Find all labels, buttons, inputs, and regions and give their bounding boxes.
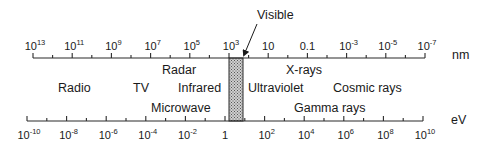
energy-tick-label: 10-6 (99, 127, 118, 141)
energy-tick-label: 106 (338, 127, 354, 141)
wavelength-tick-label: 10-5 (378, 38, 397, 52)
region-label-x-rays: X-rays (286, 63, 322, 77)
energy-axis: 10-1010-810-610-410-211021041061081010 (17, 116, 435, 141)
wavelength-axis: 10131011109107105103100.110-310-510-7 (25, 38, 437, 58)
energy-tick-label: 1010 (415, 127, 436, 141)
wavelength-unit-label: nm (452, 48, 469, 62)
wavelength-tick-label: 107 (144, 38, 160, 52)
region-label-radar: Radar (162, 63, 196, 77)
visible-arrow (244, 24, 257, 55)
spectrum-diagram: Visible 10131011109107105103100.110-310-… (0, 0, 485, 156)
energy-tick-label: 1 (222, 129, 228, 141)
wavelength-tick-label: 10-3 (339, 38, 358, 52)
energy-tick-label: 102 (258, 127, 274, 141)
energy-tick-label: 104 (298, 127, 314, 141)
wavelength-tick-label: 109 (105, 38, 121, 52)
energy-tick-label: 10-10 (17, 127, 40, 141)
wavelength-tick-label: 1011 (64, 38, 84, 52)
energy-tick-label: 10-8 (59, 127, 78, 141)
wavelength-tick-label: 105 (184, 38, 200, 52)
energy-tick-label: 10-2 (178, 127, 197, 141)
region-label-tv: TV (133, 81, 150, 95)
region-label-radio: Radio (58, 81, 91, 95)
region-label-infrared: Infrared (178, 81, 221, 95)
region-label-microwave: Microwave (151, 101, 211, 115)
wavelength-tick-label: 0.1 (300, 40, 315, 52)
energy-tick-label: 10-4 (138, 127, 157, 141)
visible-band (229, 58, 243, 121)
wavelength-tick-label: 103 (223, 38, 239, 52)
region-label-ultraviolet: Ultraviolet (248, 81, 304, 95)
energy-tick-label: 108 (377, 127, 393, 141)
energy-unit-label: eV (451, 113, 467, 127)
region-label-gamma-rays: Gamma rays (294, 101, 366, 115)
visible-label: Visible (257, 8, 294, 22)
region-label-cosmic-rays: Cosmic rays (333, 81, 402, 95)
wavelength-tick-label: 10 (262, 40, 274, 52)
wavelength-tick-label: 10-7 (418, 38, 437, 52)
wavelength-tick-label: 1013 (25, 38, 46, 52)
